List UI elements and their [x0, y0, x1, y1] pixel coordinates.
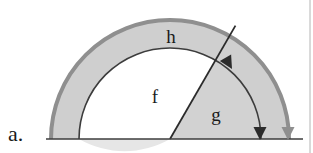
angle-label-g: g — [211, 104, 221, 125]
angle-label-f: f — [152, 86, 159, 107]
item-letter-label: a. — [8, 121, 23, 146]
figure-container: h f g a. — [0, 0, 313, 153]
angle-label-h: h — [166, 26, 176, 47]
semicircle-angle-diagram: h f g a. — [0, 0, 313, 153]
